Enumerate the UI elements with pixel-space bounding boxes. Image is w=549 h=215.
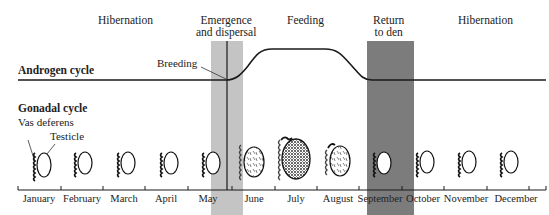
gonad-april bbox=[161, 152, 179, 177]
gonad-june bbox=[240, 145, 265, 180]
testicle-pointer bbox=[47, 144, 55, 154]
testicle-label: Testicle bbox=[50, 130, 84, 142]
breeding-label: Breeding bbox=[157, 57, 197, 69]
phase-hibernation-start: Hibernation bbox=[98, 14, 153, 26]
gonad-february bbox=[75, 152, 93, 177]
month-december: December bbox=[486, 193, 546, 204]
gonad-august bbox=[326, 144, 351, 176]
return-to-den-band bbox=[367, 41, 414, 215]
phase-emergence-and-dispersal: Emergence and dispersal bbox=[196, 14, 256, 38]
gonadal-cycle-label: Gonadal cycle bbox=[18, 102, 87, 114]
gonad-december bbox=[501, 151, 519, 177]
phase-feeding: Feeding bbox=[287, 14, 324, 26]
androgen-curve bbox=[18, 49, 546, 80]
phase-hibernation-end: Hibernation bbox=[458, 14, 513, 26]
phase-return-to-den: Return to den bbox=[373, 14, 404, 38]
vas-deferens-label: Vas deferens bbox=[18, 116, 74, 128]
gonad-march bbox=[118, 152, 136, 177]
axis-ticks bbox=[18, 186, 546, 190]
gonad-january bbox=[34, 153, 52, 181]
gonad-november bbox=[459, 151, 477, 177]
androgen-cycle-label: Androgen cycle bbox=[18, 64, 94, 76]
gonad-october bbox=[417, 151, 435, 177]
gonad-july bbox=[279, 137, 311, 180]
